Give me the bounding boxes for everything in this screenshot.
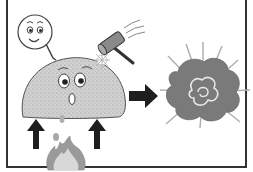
dust-explosion-illustration — [0, 0, 253, 172]
spark-icon — [94, 52, 110, 68]
thought-bubble-face — [18, 15, 56, 60]
right-arrow-icon — [129, 84, 158, 108]
up-arrow-right-icon — [88, 119, 106, 149]
explosion-icon — [160, 42, 250, 128]
dust-mound-character — [22, 58, 125, 119]
flame-icon — [47, 115, 86, 170]
up-arrow-left-icon — [27, 119, 45, 149]
